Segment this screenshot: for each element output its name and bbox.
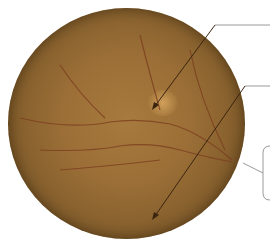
arrowhead-lower <box>152 212 159 220</box>
callout-bracket <box>243 146 270 200</box>
arrow-upper <box>155 25 215 106</box>
figure <box>0 0 270 243</box>
arrow-lower <box>155 86 245 216</box>
blood-vessels <box>20 35 232 170</box>
annotation-layer <box>0 0 270 243</box>
